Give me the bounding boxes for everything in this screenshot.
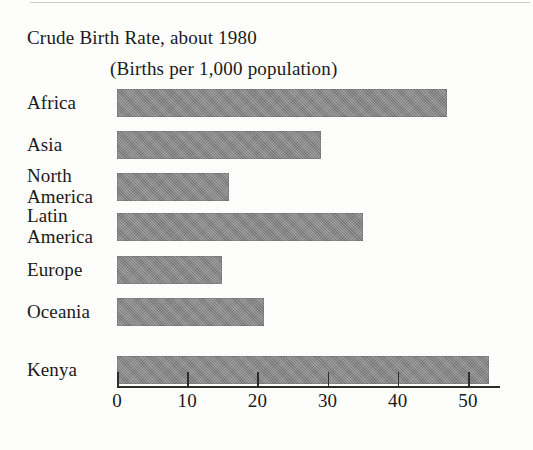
bar-latin-america	[117, 213, 363, 241]
category-label: Asia	[27, 134, 62, 155]
bar-africa	[117, 89, 447, 117]
bar-kenya	[117, 356, 489, 384]
x-axis-tick-label: 20	[237, 390, 277, 412]
x-axis-tick-label: 0	[97, 390, 137, 412]
plot-area: AfricaAsiaNorth AmericaLatin AmericaEuro…	[0, 0, 533, 450]
bar-oceania	[117, 298, 264, 326]
x-axis-tick	[257, 372, 259, 387]
x-axis-tick	[468, 372, 470, 387]
x-axis-tick	[187, 372, 189, 387]
x-axis-tick	[398, 372, 400, 387]
chart-figure: Crude Birth Rate, about 1980 (Births per…	[0, 0, 533, 450]
x-axis-tick-label: 10	[167, 390, 207, 412]
x-axis-tick	[117, 372, 119, 387]
category-label: North America	[27, 165, 93, 207]
category-label: Kenya	[27, 359, 77, 380]
bar-europe	[117, 256, 222, 284]
bar-asia	[117, 131, 321, 159]
category-label: Latin America	[27, 205, 93, 247]
x-axis-tick-label: 50	[448, 390, 488, 412]
x-axis-line	[117, 386, 500, 388]
x-axis-tick	[328, 372, 330, 387]
category-label: Africa	[27, 92, 76, 113]
category-label: Europe	[27, 259, 82, 280]
bar-north-america	[117, 173, 229, 201]
x-axis-tick-label: 40	[378, 390, 418, 412]
category-label: Oceania	[27, 301, 90, 322]
x-axis-tick-label: 30	[308, 390, 348, 412]
